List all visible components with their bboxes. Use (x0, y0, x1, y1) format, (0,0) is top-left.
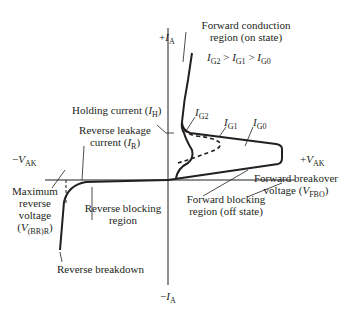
reverse-breakdown-label: Reverse breakdown (57, 263, 144, 275)
pos-vak-label: +VAK (300, 153, 325, 165)
pos-ia-label: +IA (159, 31, 175, 43)
ig1-label: IG1 (224, 116, 237, 128)
ig2-label: IG2 (195, 106, 208, 118)
max-reverse-voltage-label: Maximum reverse voltage (V(BR)R) (10, 185, 60, 233)
ig0-label: IG0 (253, 116, 266, 128)
forward-breakover-label: Forward breakover voltage (VFBO) (246, 172, 346, 196)
forward-conduction-label: Forward conduction region (on state) (186, 19, 306, 43)
gate-current-relation: IG2 > IG1 > IG0 (207, 51, 271, 63)
neg-vak-label: −VAK (12, 153, 37, 165)
forward-conduction-curve (182, 53, 192, 122)
reverse-blocking-label: Reverse blocking region (78, 202, 168, 226)
neg-ia-label: −IA (160, 290, 176, 302)
iv-characteristic-plot (0, 0, 347, 313)
forward-blocking-label: Forward blocking region (off state) (176, 193, 276, 217)
holding-current-label: Holding current (IH) (72, 104, 162, 116)
reverse-leakage-label: Reverse leakage current (IR) (70, 124, 160, 148)
